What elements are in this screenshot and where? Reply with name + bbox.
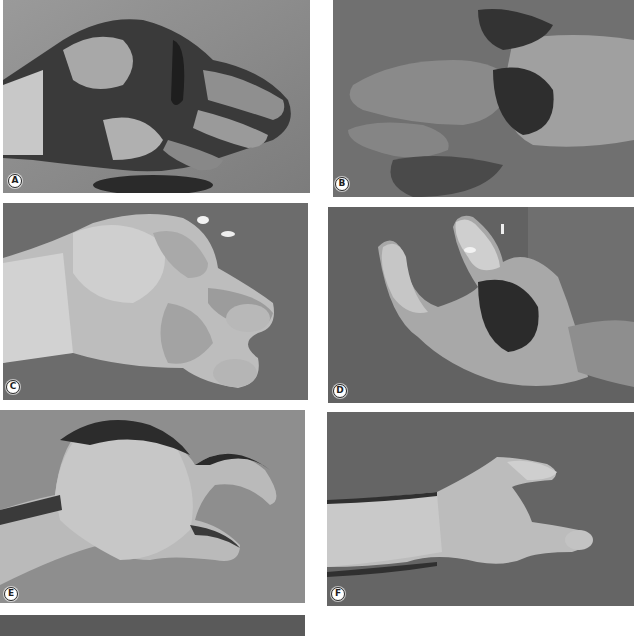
panel-label-f: F — [331, 587, 345, 601]
injured-hand-image-b — [333, 0, 634, 197]
photo-panel-e: E — [0, 410, 305, 603]
panel-label-d: D — [333, 384, 347, 398]
partial-image-g — [0, 615, 305, 636]
photo-panel-a: A — [3, 0, 310, 193]
panel-label-a: A — [8, 174, 22, 188]
reconstructed-hand-image-c — [3, 203, 308, 400]
panel-label-c: C — [6, 380, 20, 394]
panel-label-b: B — [335, 177, 349, 191]
photo-panel-g — [0, 615, 305, 636]
panel-label-e: E — [4, 587, 18, 601]
injured-hand-image-a — [3, 0, 310, 193]
healed-hand-image-f — [327, 412, 634, 606]
reconstructed-hand-image-d — [328, 207, 634, 403]
photo-panel-d: D — [328, 207, 634, 403]
photo-panel-f: F — [327, 412, 634, 606]
healed-hand-image-e — [0, 410, 305, 603]
photo-panel-c: C — [3, 203, 308, 400]
photo-panel-b: B — [333, 0, 634, 197]
